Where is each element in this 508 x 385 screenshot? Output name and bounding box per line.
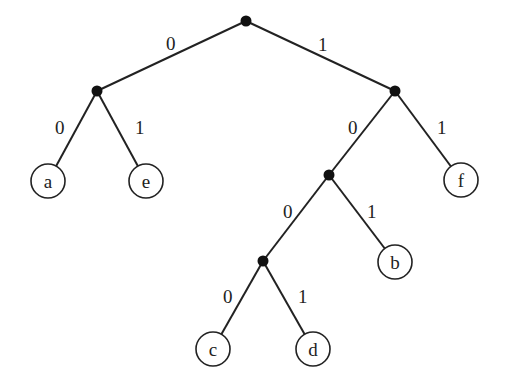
edge-root-n1 bbox=[246, 21, 395, 91]
edge-label: 1 bbox=[318, 34, 328, 55]
edge-label: 1 bbox=[437, 117, 447, 138]
leaf-label: d bbox=[308, 339, 318, 360]
internal-node-dot bbox=[258, 256, 269, 267]
edge-root-n0 bbox=[97, 21, 246, 91]
internal-node-dot bbox=[241, 16, 252, 27]
leaf-label: a bbox=[44, 171, 53, 192]
binary-tree-diagram: 0101011001 aefbcd bbox=[0, 0, 508, 385]
edge-label: 0 bbox=[166, 33, 176, 54]
leaf-label: b bbox=[390, 252, 400, 273]
leaf-label: c bbox=[209, 339, 217, 360]
leaf-label: e bbox=[142, 171, 150, 192]
edge-n1-n10 bbox=[329, 91, 395, 175]
leaf-e: e bbox=[129, 164, 163, 198]
leaf-a: a bbox=[31, 164, 65, 198]
internal-node-dot bbox=[390, 86, 401, 97]
edge-label: 1 bbox=[298, 286, 308, 307]
internal-node-dot bbox=[324, 170, 335, 181]
edge-label: 0 bbox=[348, 117, 358, 138]
leaf-d: d bbox=[296, 332, 330, 366]
leaf-c: c bbox=[196, 332, 230, 366]
tree-edges bbox=[48, 21, 461, 349]
edge-label: 1 bbox=[135, 117, 145, 138]
leaf-b: b bbox=[378, 245, 412, 279]
leaf-nodes: aefbcd bbox=[31, 163, 478, 366]
leaf-f: f bbox=[444, 163, 478, 197]
edge-label: 0 bbox=[283, 201, 293, 222]
leaf-label: f bbox=[458, 170, 465, 191]
edge-label: 0 bbox=[223, 286, 233, 307]
edge-label: 1 bbox=[367, 201, 377, 222]
edge-n10-n100 bbox=[263, 175, 329, 261]
edge-label: 0 bbox=[55, 117, 65, 138]
internal-nodes bbox=[92, 16, 401, 267]
internal-node-dot bbox=[92, 86, 103, 97]
